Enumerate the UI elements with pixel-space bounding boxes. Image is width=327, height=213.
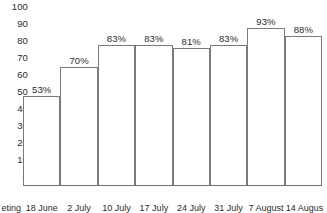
bar-4	[173, 48, 210, 186]
bar-value-3: 83%	[135, 33, 172, 44]
bar-3	[135, 45, 172, 186]
bar-2	[98, 45, 135, 186]
bar-1	[60, 67, 97, 186]
bar-value-1: 70%	[60, 55, 97, 66]
x-axis-label-4: 17 July	[135, 203, 172, 213]
bar-0	[23, 96, 60, 186]
x-axis-label-7: 7 August	[245, 203, 286, 213]
bar-chart: 100 90 80 70 60 50 40 30 20 10 0 53% 70%…	[0, 0, 327, 213]
bar-value-2: 83%	[98, 33, 135, 44]
x-axis-label-3: 10 July	[98, 203, 135, 213]
bar-value-7: 88%	[285, 24, 322, 35]
x-axis-line	[23, 185, 322, 186]
x-axis-label-6: 31 July	[210, 203, 247, 213]
x-axis-label-1: 18 June	[23, 203, 60, 213]
bar-5	[210, 45, 247, 186]
x-axis-label-8: 14 Augus	[285, 203, 327, 213]
bar-value-4: 81%	[173, 36, 210, 47]
x-axis-label-5: 24 July	[173, 203, 210, 213]
bar-6	[247, 28, 284, 186]
bar-value-0: 53%	[23, 84, 60, 95]
y-axis-tick-100: 100	[6, 2, 28, 12]
x-axis-label-0: eting	[0, 203, 23, 213]
bar-7	[285, 36, 322, 186]
bar-value-6: 93%	[247, 16, 284, 27]
x-axis-label-2: 2 July	[60, 203, 97, 213]
bar-value-5: 83%	[210, 33, 247, 44]
